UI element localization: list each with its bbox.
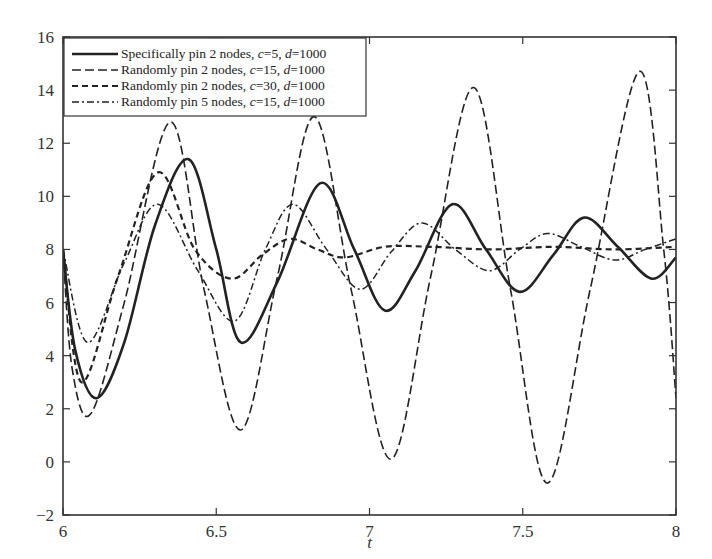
y-tick-label: 0 [46,453,55,472]
series-line-dash [63,172,676,382]
line-chart: 66.577.58 −20246810121416 t Specifically… [0,0,712,559]
y-tick-label: −2 [36,506,54,525]
x-tick-label: 6 [59,522,68,541]
y-tick-label: 12 [37,134,54,153]
legend: Specifically pin 2 nodes, c=5, d=1000 Ra… [64,38,366,116]
legend-entry-1: Randomly pin 2 nodes, c=15, d=1000 [121,62,325,77]
y-tick-label: 10 [37,187,54,206]
series-line-longdash [63,71,676,483]
y-tick-label: 8 [46,240,55,259]
legend-entry-0: Specifically pin 2 nodes, c=5, d=1000 [121,46,327,61]
y-tick-label: 4 [46,347,55,366]
legend-entry-2: Randomly pin 2 nodes, c=30, d=1000 [121,78,325,93]
y-tick-label: 14 [37,81,55,100]
x-tick-label: 8 [672,522,681,541]
y-tick-label: 16 [37,28,54,47]
plot-lines [63,71,676,483]
legend-entry-3: Randomly pin 5 nodes, c=15, d=1000 [121,94,325,109]
y-tick-label: 2 [46,400,55,419]
x-tick-label: 7.5 [512,522,533,541]
x-tick-label: 6.5 [206,522,227,541]
y-axis-tick-labels: −20246810121416 [36,28,55,525]
series-line-solid [63,159,676,398]
y-tick-label: 6 [46,294,55,313]
